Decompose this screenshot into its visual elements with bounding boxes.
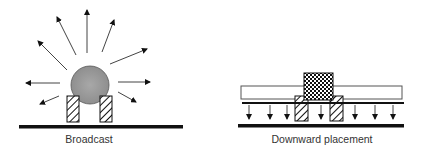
arrow-icon	[110, 49, 147, 64]
arrow-icon	[38, 41, 67, 70]
checkered-chip	[304, 73, 333, 100]
arrow-icon	[118, 92, 136, 102]
thin-bar	[242, 102, 404, 104]
hatched-pad-left	[67, 96, 79, 122]
arrow-icon	[102, 20, 114, 52]
broadcast-panel	[19, 10, 183, 129]
downward-arrows	[249, 105, 393, 119]
downward-panel	[238, 73, 404, 128]
substrate-bar	[238, 124, 404, 128]
diagram-figure	[0, 0, 424, 154]
arrow-icon	[57, 17, 76, 55]
caption-downward-placement: Downward placement	[272, 133, 373, 145]
arrow-icon	[40, 96, 59, 104]
hatched-pad-right	[100, 96, 112, 122]
substrate-bar	[19, 125, 183, 129]
caption-broadcast: Broadcast	[65, 133, 112, 145]
